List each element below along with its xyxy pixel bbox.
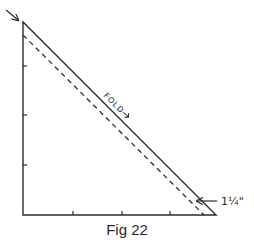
dashed-fold-line: [23, 35, 204, 215]
figure-caption: Fig 22: [0, 221, 254, 238]
triangle-outline: [23, 22, 216, 215]
fold-diagram: FOLD 1¼": [0, 0, 254, 247]
measurement-label: 1¼": [221, 195, 244, 208]
pointer-arrow-icon: [6, 10, 18, 20]
fold-label: FOLD: [102, 91, 126, 115]
